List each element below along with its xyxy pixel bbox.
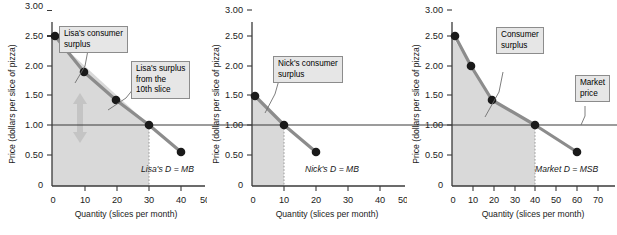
lisa-ytick-200: 2.00 bbox=[25, 61, 43, 71]
market-ytick-150: 1.50 bbox=[425, 90, 443, 100]
callout-line: surplus bbox=[64, 40, 123, 51]
nick-ytick-050: 0.50 bbox=[225, 150, 243, 160]
callout-lisa-consumer-surplus: Lisa's consumer surplus bbox=[59, 26, 128, 53]
nick-xtick-20: 20 bbox=[311, 195, 321, 205]
lisa-x-axis-title: Quantity (slices per month) bbox=[75, 209, 178, 219]
lisa-point-5 bbox=[177, 148, 186, 157]
nick-xtick-40: 40 bbox=[375, 195, 385, 205]
nick-ytick-100: 1.00 bbox=[225, 120, 243, 130]
market-xtick-60: 60 bbox=[572, 195, 582, 205]
market-ytick-300: 3.00 bbox=[425, 5, 443, 15]
lisa-ytick-150: 1.50 bbox=[25, 90, 43, 100]
callout-nick-consumer-surplus: Nick's consumer surplus bbox=[273, 56, 343, 83]
market-x-ticks bbox=[473, 186, 598, 191]
market-point-4 bbox=[531, 121, 540, 130]
market-xtick-50: 50 bbox=[551, 195, 561, 205]
callout-line: surplus bbox=[278, 70, 338, 81]
callout-market-price: Market price bbox=[575, 75, 610, 102]
market-point-5 bbox=[573, 148, 582, 157]
callout-line: price bbox=[580, 89, 605, 100]
consumer-surplus-figure: 0.50 1.00 1.50 2.00 2.50 0 10 20 30 40 5… bbox=[0, 0, 617, 235]
callout-line: Lisa's surplus bbox=[136, 64, 185, 75]
lisa-y-ticks bbox=[47, 36, 52, 155]
lisa-xtick-50: 50 bbox=[200, 195, 207, 205]
callout-line: surplus bbox=[501, 41, 539, 52]
callout-lisa-10th-slice: Lisa's surplus from the 10th slice bbox=[131, 61, 190, 99]
lisa-xtick-30: 30 bbox=[144, 195, 154, 205]
lisa-point-1 bbox=[51, 32, 60, 41]
nick-xtick-50: 50 bbox=[398, 195, 407, 205]
panel-nick: 0.50 1.00 1.50 2.00 2.50 3.00 0 0 10 20 … bbox=[207, 0, 407, 235]
lisa-curve-label: Lisa's D = MB bbox=[141, 164, 194, 174]
nick-y-ticks bbox=[247, 10, 252, 155]
nick-xtick-30: 30 bbox=[343, 195, 353, 205]
panel-nick-chart: 0.50 1.00 1.50 2.00 2.50 3.00 0 0 10 20 … bbox=[207, 0, 407, 235]
nick-point-3 bbox=[312, 148, 321, 157]
market-y-axis-title: Price (dollars per slice of pizza) bbox=[411, 44, 421, 164]
market-callout-price-leader bbox=[581, 106, 585, 125]
nick-xtick-0: 0 bbox=[250, 195, 255, 205]
callout-line: Consumer bbox=[501, 30, 539, 41]
lisa-xtick-20: 20 bbox=[112, 195, 122, 205]
market-ytick-050: 0.50 bbox=[425, 150, 443, 160]
nick-x-axis-title: Quantity (slices per month) bbox=[276, 209, 379, 219]
nick-callout-leader bbox=[265, 80, 279, 113]
callout-line: Market bbox=[580, 78, 605, 89]
market-y-ticks bbox=[447, 10, 452, 155]
market-ytick-200: 2.00 bbox=[425, 61, 443, 71]
lisa-xtick-0: 0 bbox=[50, 195, 55, 205]
market-surplus-region bbox=[452, 36, 535, 186]
nick-x-ticks bbox=[284, 186, 380, 191]
lisa-y-axis-title: Price (dollars per slice of pizza) bbox=[7, 44, 17, 164]
nick-ytick-300: 3.00 bbox=[225, 5, 243, 15]
market-xtick-30: 30 bbox=[510, 195, 520, 205]
market-xtick-40: 40 bbox=[530, 195, 540, 205]
lisa-point-4 bbox=[145, 121, 154, 130]
panel-market: 0.50 1.00 1.50 2.00 2.50 3.00 0 10 20 30… bbox=[407, 0, 617, 235]
market-point-1 bbox=[451, 32, 460, 41]
market-curve-label: Market D = MSB bbox=[535, 164, 599, 174]
market-xtick-10: 10 bbox=[468, 195, 478, 205]
nick-point-1 bbox=[251, 92, 260, 101]
nick-ytick-150: 1.50 bbox=[225, 90, 243, 100]
lisa-xtick-40: 40 bbox=[176, 195, 186, 205]
lisa-ytick-050: 0.50 bbox=[25, 150, 43, 160]
nick-xtick-10: 10 bbox=[279, 195, 289, 205]
panel-lisa: 0.50 1.00 1.50 2.00 2.50 0 10 20 30 40 5… bbox=[0, 0, 207, 235]
market-ytick-100: 1.00 bbox=[425, 120, 443, 130]
lisa-x-ticks bbox=[85, 186, 181, 191]
nick-y-axis-title: Price (dollars per slice of pizza) bbox=[211, 44, 221, 164]
lisa-surplus-region bbox=[52, 36, 149, 186]
nick-ytick-200: 2.00 bbox=[225, 61, 243, 71]
market-ytick-250: 2.50 bbox=[425, 31, 443, 41]
market-xtick-70: 70 bbox=[593, 195, 603, 205]
lisa-ytick-100: 1.00 bbox=[25, 120, 43, 130]
callout-line: Nick's consumer bbox=[278, 59, 338, 70]
market-xtick-0: 0 bbox=[450, 195, 455, 205]
lisa-ytick-250: 2.50 bbox=[25, 31, 43, 41]
nick-ytick-250: 2.50 bbox=[225, 31, 243, 41]
callout-line: Lisa's consumer bbox=[64, 29, 123, 40]
market-point-2 bbox=[467, 62, 476, 71]
market-xtick-20: 20 bbox=[489, 195, 499, 205]
nick-curve-label: Nick's D = MB bbox=[305, 164, 359, 174]
callout-market-consumer-surplus: Consumer surplus bbox=[496, 27, 544, 54]
market-x-axis-title: Quantity (slices per month) bbox=[482, 209, 585, 219]
nick-point-2 bbox=[280, 121, 289, 130]
lisa-xtick-10: 10 bbox=[80, 195, 90, 205]
callout-line: from the bbox=[136, 75, 185, 86]
callout-line: 10th slice bbox=[136, 85, 185, 96]
